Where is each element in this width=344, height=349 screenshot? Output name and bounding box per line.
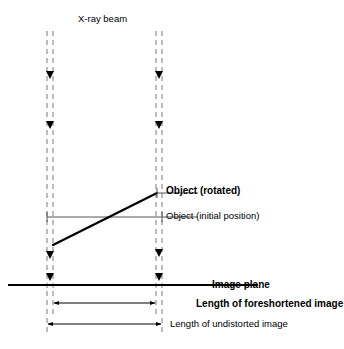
undistorted-dimension — [47, 291, 162, 334]
label-image-plane: Image plane — [212, 280, 270, 290]
foreshortened-dimension — [53, 291, 156, 314]
object-rotated-segment — [53, 193, 157, 245]
beam-arrow-down-icon — [155, 249, 163, 257]
label-length-foreshortened-image: Length of foreshortened image — [196, 299, 343, 309]
label-object-initial-position: Object (initial position) — [166, 211, 259, 221]
label-length-undistorted-image: Length of undistorted image — [170, 319, 288, 329]
label-object-rotated: Object (rotated) — [166, 186, 240, 196]
diagram-canvas — [0, 0, 344, 349]
label-xray-beam: X-ray beam — [78, 14, 127, 24]
xray-foreshortening-diagram: X-ray beam Object (rotated) Object (init… — [0, 0, 344, 349]
